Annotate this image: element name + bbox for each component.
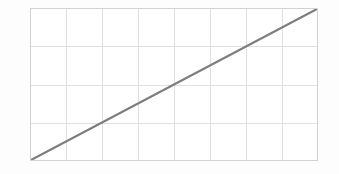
plot-svg bbox=[30, 8, 318, 161]
plot-area bbox=[30, 8, 318, 161]
figure-root bbox=[0, 0, 339, 174]
